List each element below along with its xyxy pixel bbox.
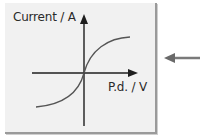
y-axis-arrowhead-icon (80, 14, 88, 24)
x-axis-label: P.d. / V (108, 80, 147, 94)
left-arrow-icon (164, 53, 175, 63)
y-axis-label: Current / A (13, 10, 76, 24)
iv-curve (36, 37, 130, 107)
x-axis-arrowhead-icon (128, 69, 138, 77)
